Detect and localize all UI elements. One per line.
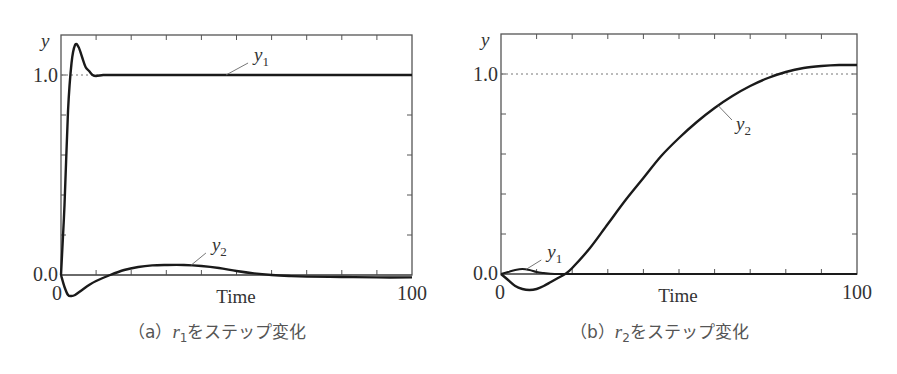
annotation-label-y1: y1 [252, 44, 269, 69]
caption-label: （b） [570, 322, 615, 342]
annotation-label-y2: y2 [734, 113, 751, 138]
chart-panel-a: y1y2 y 0.0 1.0 0 100 Time [33, 30, 427, 307]
y-axis-label: y [39, 30, 50, 51]
annotation-leader-y2 [718, 106, 732, 120]
series-annotations: y1y2 [191, 44, 269, 265]
axis-ticks [61, 35, 412, 275]
series-y1-line [61, 44, 412, 275]
x-tick-label-100: 100 [842, 281, 872, 303]
x-tick-label-0: 0 [52, 282, 62, 304]
caption-a: （a）r1をステップ変化 [128, 318, 306, 345]
caption-b: （b）r2をステップ変化 [570, 318, 749, 345]
y-axis-label: y [479, 29, 490, 50]
x-axis-label: Time [216, 286, 255, 307]
caption-sub: 2 [622, 331, 630, 345]
annotation-label-y1: y1 [545, 241, 562, 266]
x-tick-label-100: 100 [397, 282, 427, 304]
y-tick-label-1: 1.0 [473, 63, 498, 85]
x-tick-label-0: 0 [495, 281, 505, 303]
annotation-leader-y1 [526, 260, 541, 270]
series-annotations: y1y2 [526, 106, 751, 270]
y-tick-label-1: 1.0 [33, 64, 58, 86]
x-axis-label: Time [658, 285, 697, 306]
annotation-leader-y2 [191, 253, 206, 265]
annotation-label-y2: y2 [210, 234, 227, 259]
chart-panel-b: y1y2 y 0.0 1.0 0 100 Time [473, 29, 872, 306]
caption-label: （a） [128, 322, 172, 342]
plot-frame [61, 35, 412, 275]
plot-frame [501, 34, 857, 274]
annotation-leader-y1 [226, 63, 248, 75]
caption-var: r [172, 321, 179, 342]
axis-ticks [501, 34, 857, 274]
caption-text: をステップ変化 [187, 322, 306, 342]
caption-text: をステップ変化 [630, 322, 749, 342]
